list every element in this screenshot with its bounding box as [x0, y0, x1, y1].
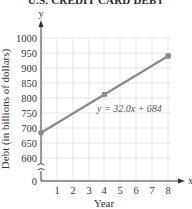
svg-text:600: 600	[21, 153, 37, 164]
origin-label: 0	[32, 176, 37, 187]
svg-text:700: 700	[21, 123, 37, 134]
svg-text:850: 850	[21, 78, 37, 89]
y-tick-labels: 1000 950 900 850 800 750 700 650 600 0	[16, 33, 37, 187]
svg-text:2: 2	[70, 185, 75, 196]
svg-text:1: 1	[54, 185, 59, 196]
data-point	[38, 130, 44, 136]
svg-text:5: 5	[117, 185, 122, 196]
svg-text:6: 6	[133, 185, 138, 196]
series-line	[38, 53, 171, 136]
svg-text:8: 8	[165, 185, 170, 196]
axes	[39, 20, 186, 184]
x-tick-labels: 1 2 3 4 5 6 7 8	[54, 185, 170, 196]
svg-text:650: 650	[21, 138, 37, 149]
x-axis-symbol: x	[188, 175, 192, 186]
equation-annotation: y = 32.0x + 684	[96, 103, 162, 114]
data-point	[102, 92, 107, 97]
y-axis-label: Debt (in billions of dollars)	[0, 48, 12, 169]
svg-text:7: 7	[149, 185, 154, 196]
svg-text:1000: 1000	[16, 33, 37, 44]
svg-text:750: 750	[21, 108, 37, 119]
svg-text:3: 3	[86, 185, 91, 196]
axis-break-icon	[38, 163, 45, 171]
line-chart: y x 1000 950 900 850 800 750 700 650 600…	[0, 0, 192, 209]
x-axis-label: Year	[94, 197, 115, 209]
y-axis-symbol: y	[38, 8, 44, 19]
data-point	[165, 53, 171, 59]
svg-text:950: 950	[21, 48, 37, 59]
svg-text:4: 4	[101, 185, 107, 196]
svg-text:800: 800	[21, 93, 37, 104]
svg-text:900: 900	[21, 63, 37, 74]
